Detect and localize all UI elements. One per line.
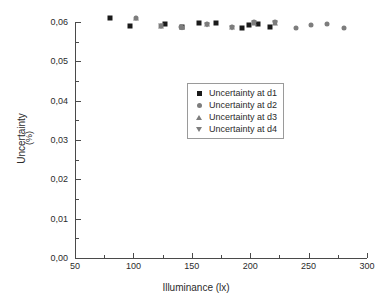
y-tick-label: 0,02	[50, 174, 68, 184]
x-tick-major	[367, 253, 368, 258]
x-tick-label: 250	[301, 261, 316, 271]
y-tick-major	[76, 140, 81, 141]
legend-marker-triangle-down-icon	[192, 127, 206, 132]
data-point	[179, 25, 185, 30]
legend-label: Uncertainty at d1	[209, 88, 277, 98]
y-tick-label: 0,06	[50, 17, 68, 27]
y-tick-label: 0,05	[50, 56, 68, 66]
x-tick-minor	[163, 255, 164, 258]
x-tick-label: 200	[243, 261, 258, 271]
x-tick-minor	[279, 255, 280, 258]
legend-entry[interactable]: Uncertainty at d2	[192, 99, 277, 111]
y-tick-label: 0,03	[50, 135, 68, 145]
x-tick-minor	[221, 255, 222, 258]
x-tick-minor	[104, 255, 105, 258]
y-tick-label: 0,00	[50, 253, 68, 263]
y-tick-minor	[76, 120, 79, 121]
y-tick-label: 0,01	[50, 214, 68, 224]
y-tick-minor	[76, 160, 79, 161]
data-point	[240, 25, 245, 30]
y-tick-minor	[76, 238, 79, 239]
data-point	[127, 23, 132, 28]
data-point	[229, 25, 235, 30]
legend-label: Uncertainty at d3	[209, 112, 277, 122]
y-tick-label: 0,04	[50, 96, 68, 106]
legend-marker-square-icon	[192, 91, 206, 96]
x-axis-title: Illuminance (lx)	[0, 282, 392, 293]
x-axis-line	[75, 258, 367, 259]
legend-entry[interactable]: Uncertainty at d1	[192, 87, 277, 99]
data-point	[272, 21, 278, 26]
x-tick-major	[250, 253, 251, 258]
data-point	[293, 25, 298, 30]
y-tick-major	[76, 219, 81, 220]
x-tick-major	[309, 253, 310, 258]
y-tick-major	[76, 101, 81, 102]
legend-entry[interactable]: Uncertainty at d4	[192, 123, 277, 135]
x-tick-label: 50	[70, 261, 80, 271]
data-point	[325, 21, 330, 26]
y-tick-minor	[76, 199, 79, 200]
y-tick-major	[76, 61, 81, 62]
data-point	[204, 22, 210, 27]
y-tick-major	[76, 22, 81, 23]
scatter-chart: 501001502002503000,000,010,020,030,040,0…	[0, 0, 392, 308]
x-tick-major	[192, 253, 193, 258]
x-tick-major	[133, 253, 134, 258]
y-axis-title: Uncertainty (%)	[4, 0, 50, 308]
y-axis-title-unit: (%)	[24, 115, 34, 161]
y-tick-major	[76, 258, 81, 259]
data-point	[158, 23, 164, 28]
data-point	[133, 16, 139, 21]
chart-legend: Uncertainty at d1Uncertainty at d2Uncert…	[187, 83, 284, 139]
y-tick-minor	[76, 81, 79, 82]
x-tick-label: 150	[184, 261, 199, 271]
x-tick-label: 100	[126, 261, 141, 271]
x-tick-label: 300	[359, 261, 374, 271]
data-point	[196, 21, 201, 26]
y-tick-major	[76, 179, 81, 180]
data-point	[108, 15, 113, 20]
data-point	[251, 21, 257, 26]
legend-label: Uncertainty at d2	[209, 100, 277, 110]
data-point	[341, 25, 346, 30]
data-point	[308, 23, 313, 28]
x-tick-minor	[338, 255, 339, 258]
legend-entry[interactable]: Uncertainty at d3	[192, 111, 277, 123]
legend-marker-triangle-up-icon	[192, 115, 206, 120]
data-point	[214, 21, 219, 26]
y-tick-minor	[76, 42, 79, 43]
legend-label: Uncertainty at d4	[209, 124, 277, 134]
legend-marker-circle-icon	[192, 103, 206, 108]
